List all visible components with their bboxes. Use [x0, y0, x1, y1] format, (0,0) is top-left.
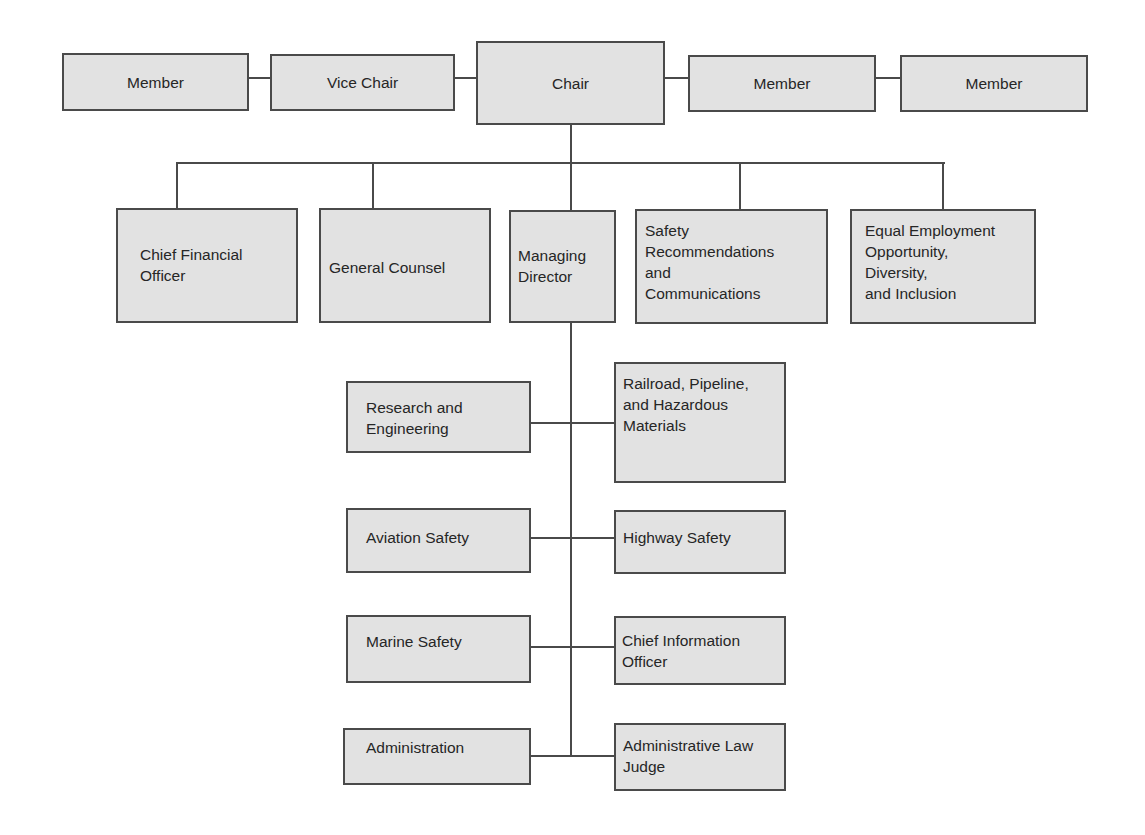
connector-drop-eeo	[942, 162, 944, 210]
connector-second-row-bar	[176, 162, 945, 164]
box-label: Member	[966, 73, 1023, 94]
org-chart: Member Vice Chair Chair Member Member Ch…	[0, 0, 1145, 835]
connector-branch-1	[530, 422, 615, 424]
box-member-right-2: Member	[900, 55, 1088, 112]
box-aviation-safety: Aviation Safety	[346, 508, 531, 573]
box-highway-safety: Highway Safety	[614, 510, 786, 574]
box-label: General Counsel	[329, 257, 445, 278]
connector-md-spine	[570, 322, 572, 757]
box-label: Highway Safety	[623, 527, 731, 548]
connector-member-member	[875, 77, 900, 79]
box-label: Administrative Law Judge	[623, 735, 753, 777]
box-label: Member	[754, 73, 811, 94]
connector-branch-4	[530, 755, 615, 757]
box-label: Chief Information Officer	[622, 630, 740, 672]
connector-vicechair-chair	[454, 77, 476, 79]
box-label: Safety Recommendations and Communication…	[645, 220, 774, 304]
box-chief-information-officer: Chief Information Officer	[614, 616, 786, 685]
connector-chair-down	[570, 124, 572, 210]
box-research-engineering: Research and Engineering	[346, 381, 531, 453]
connector-chair-member	[664, 77, 688, 79]
box-label: Chair	[552, 73, 589, 94]
box-administration: Administration	[343, 728, 531, 785]
box-label: Railroad, Pipeline, and Hazardous Materi…	[623, 373, 749, 436]
box-vice-chair: Vice Chair	[270, 54, 455, 111]
box-equal-employment: Equal Employment Opportunity, Diversity,…	[850, 209, 1036, 324]
box-member-right-1: Member	[688, 55, 876, 112]
connector-branch-2	[530, 537, 615, 539]
connector-drop-src	[739, 162, 741, 210]
box-marine-safety: Marine Safety	[346, 615, 531, 683]
box-label: Chief Financial Officer	[140, 244, 243, 286]
box-railroad-pipeline: Railroad, Pipeline, and Hazardous Materi…	[614, 362, 786, 483]
connector-branch-3	[530, 646, 615, 648]
box-administrative-law-judge: Administrative Law Judge	[614, 723, 786, 791]
box-label: Aviation Safety	[366, 527, 469, 548]
box-label: Vice Chair	[327, 72, 398, 93]
box-member-left: Member	[62, 53, 249, 111]
box-managing-director: Managing Director	[509, 210, 616, 323]
box-label: Equal Employment Opportunity, Diversity,…	[865, 220, 995, 304]
connector-drop-gc	[372, 162, 374, 209]
box-label: Managing Director	[518, 245, 586, 287]
connector-member-vicechair	[248, 77, 270, 79]
connector-drop-cfo	[176, 162, 178, 209]
box-label: Research and Engineering	[366, 397, 463, 439]
box-safety-recommendations: Safety Recommendations and Communication…	[635, 209, 828, 324]
box-general-counsel: General Counsel	[319, 208, 491, 323]
box-chief-financial-officer: Chief Financial Officer	[116, 208, 298, 323]
box-chair: Chair	[476, 41, 665, 125]
box-label: Member	[127, 72, 184, 93]
box-label: Administration	[366, 737, 464, 758]
box-label: Marine Safety	[366, 631, 462, 652]
